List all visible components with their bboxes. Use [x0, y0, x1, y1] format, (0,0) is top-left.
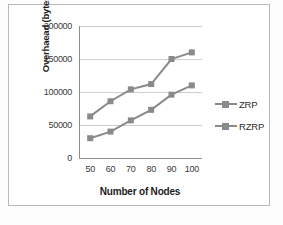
- series-line-rzrp: [90, 52, 192, 116]
- chart-legend: ZRPRZRP: [215, 93, 275, 137]
- data-point-marker: [108, 98, 114, 104]
- data-point-marker: [148, 107, 154, 113]
- legend-line-square-marker-icon: [215, 99, 237, 109]
- y-tick-label: 100000: [18, 87, 72, 97]
- legend-label: ZRP: [237, 99, 257, 110]
- data-point-marker: [128, 117, 134, 123]
- y-tick-label: 150000: [18, 54, 72, 64]
- legend-label: RZRP: [237, 121, 264, 132]
- data-series-layer: [80, 26, 202, 158]
- data-point-marker: [169, 56, 175, 62]
- y-tick-label: 0: [18, 153, 72, 163]
- y-tick-label: 200000: [18, 21, 72, 31]
- legend-item-zrp[interactable]: ZRP: [215, 93, 275, 115]
- series-line-zrp: [90, 85, 192, 138]
- data-point-marker: [108, 129, 114, 135]
- data-point-marker: [87, 113, 93, 119]
- legend-item-rzrp[interactable]: RZRP: [215, 115, 275, 137]
- data-point-marker: [189, 49, 195, 55]
- data-point-marker: [128, 86, 134, 92]
- legend-line-square-marker-icon: [215, 121, 237, 131]
- y-tick-label: 50000: [18, 120, 72, 130]
- data-point-marker: [87, 135, 93, 141]
- chart-frame: Overhaead (bytes) 0500001000001500002000…: [8, 4, 270, 206]
- data-point-marker: [189, 82, 195, 88]
- chart-figure: Overhaead (bytes) 0500001000001500002000…: [0, 0, 283, 225]
- x-tick-label: 100: [179, 164, 205, 174]
- y-axis-title: Overhaead (bytes): [40, 0, 51, 93]
- data-point-marker: [148, 81, 154, 87]
- plot-area: 050000100000150000200000 5060708090100: [79, 26, 202, 159]
- data-point-marker: [169, 92, 175, 98]
- x-axis-title: Number of Nodes: [79, 186, 201, 197]
